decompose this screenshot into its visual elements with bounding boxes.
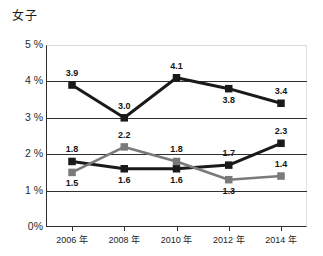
x-axis-labels: 2006 年2008 年2010 年2012 年2014 年: [0, 0, 323, 256]
x-tick-label: 2008 年: [108, 233, 140, 246]
x-tick-label: 2010 年: [161, 233, 193, 246]
x-tick-label: 2014 年: [265, 233, 297, 246]
x-tick-label: 2006 年: [56, 233, 88, 246]
chart-container: 女子 0%1 %2 %3 %4 %5 % 3.93.04.13.83.41.81…: [0, 0, 323, 256]
x-tick-label: 2012 年: [213, 233, 245, 246]
